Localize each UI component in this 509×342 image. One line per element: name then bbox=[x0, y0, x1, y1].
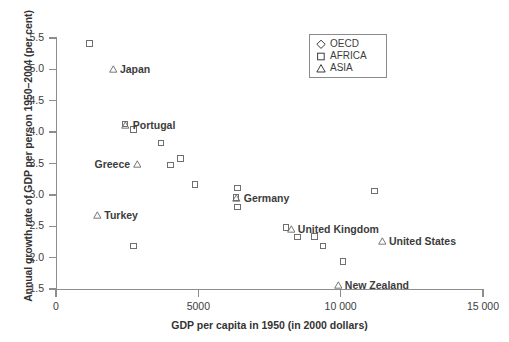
y-tick-mark bbox=[49, 100, 57, 101]
triangle-marker-icon bbox=[93, 211, 102, 219]
legend-item-label: ASIA bbox=[330, 62, 353, 74]
triangle-marker-icon bbox=[232, 194, 241, 202]
legend-item-oecd[interactable]: OECD bbox=[315, 38, 382, 50]
x-tick-mark bbox=[55, 289, 56, 297]
x-tick-label: 0 bbox=[53, 300, 59, 312]
square-marker-icon bbox=[192, 181, 199, 188]
y-tick-label: 3.5 bbox=[14, 157, 44, 169]
triangle-marker-icon bbox=[133, 160, 142, 168]
triangle-marker-icon bbox=[334, 281, 343, 289]
x-tick-mark bbox=[482, 289, 483, 297]
diamond-marker-icon bbox=[315, 38, 327, 50]
x-tick-label: 5000 bbox=[187, 300, 210, 312]
y-tick-label: 5.5 bbox=[14, 31, 44, 43]
data-point-label: Portugal bbox=[133, 119, 176, 131]
square-marker-icon bbox=[86, 40, 93, 47]
legend-item-label: OECD bbox=[330, 38, 359, 50]
y-tick-label: 1.5 bbox=[14, 282, 44, 294]
y-tick-mark bbox=[49, 131, 57, 132]
legend-item-asia[interactable]: ASIA bbox=[315, 62, 382, 74]
x-axis-label: GDP per capita in 1950 (in 2000 dollars) bbox=[56, 319, 483, 331]
y-tick-mark bbox=[49, 194, 57, 195]
y-tick-label: 2.5 bbox=[14, 219, 44, 231]
x-tick-label: 10 000 bbox=[325, 300, 357, 312]
square-marker-icon bbox=[130, 243, 137, 250]
x-tick-mark bbox=[340, 289, 341, 297]
square-marker-icon bbox=[158, 140, 165, 147]
data-point-label: New Zealand bbox=[345, 279, 409, 291]
data-point-label: Greece bbox=[95, 158, 131, 170]
y-tick-mark bbox=[49, 257, 57, 258]
scatter-chart: Annual growth rate of GDP per person 195… bbox=[0, 0, 509, 342]
square-marker-icon bbox=[234, 204, 241, 211]
square-marker-icon bbox=[320, 243, 327, 250]
data-point-label: United States bbox=[389, 235, 456, 247]
square-marker-icon bbox=[371, 188, 378, 195]
x-tick-mark bbox=[198, 289, 199, 297]
y-tick-label: 4.0 bbox=[14, 125, 44, 137]
data-point-label: Japan bbox=[120, 63, 150, 75]
y-tick-mark bbox=[49, 37, 57, 38]
data-point-label: United Kingdom bbox=[298, 223, 379, 235]
y-tick-label: 4.5 bbox=[14, 94, 44, 106]
triangle-marker-icon bbox=[378, 237, 387, 245]
data-point-label: Turkey bbox=[104, 209, 138, 221]
legend-item-label: AFRICA bbox=[330, 50, 367, 62]
data-point-label: Germany bbox=[244, 192, 290, 204]
triangle-marker-icon bbox=[109, 65, 118, 73]
square-marker-icon bbox=[167, 162, 174, 169]
y-tick-mark bbox=[49, 69, 57, 70]
triangle-marker-icon bbox=[287, 225, 296, 233]
y-tick-label: 5.0 bbox=[14, 62, 44, 74]
legend-item-africa[interactable]: AFRICA bbox=[315, 50, 382, 62]
triangle-marker-icon bbox=[315, 62, 327, 74]
y-tick-mark bbox=[49, 226, 57, 227]
triangle-marker-icon bbox=[121, 121, 130, 129]
x-axis-line bbox=[56, 289, 484, 290]
y-tick-label: 2.0 bbox=[14, 251, 44, 263]
square-marker-icon bbox=[340, 258, 347, 265]
square-marker-icon bbox=[177, 155, 184, 162]
x-tick-label: 15 000 bbox=[467, 300, 499, 312]
square-marker-icon bbox=[315, 50, 327, 62]
square-marker-icon bbox=[234, 185, 241, 192]
y-tick-label: 3.0 bbox=[14, 188, 44, 200]
chart-legend: OECDAFRICAASIA bbox=[309, 34, 387, 78]
y-tick-mark bbox=[49, 163, 57, 164]
